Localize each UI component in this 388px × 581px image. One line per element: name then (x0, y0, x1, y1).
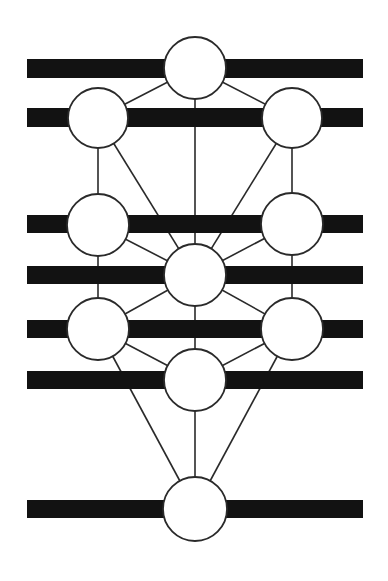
circle-node-n1 (164, 37, 226, 99)
circle-node-n4 (261, 193, 323, 255)
circle-node-n7 (261, 298, 323, 360)
circle-node-n8 (67, 298, 129, 360)
circle-node-n5 (67, 194, 129, 256)
tree-diagram (0, 0, 388, 581)
circle-node-n6 (164, 244, 226, 306)
circle-node-n10 (163, 477, 227, 541)
circle-node-n3 (68, 88, 128, 148)
circle-node-n9 (164, 349, 226, 411)
circle-node-n2 (262, 88, 322, 148)
